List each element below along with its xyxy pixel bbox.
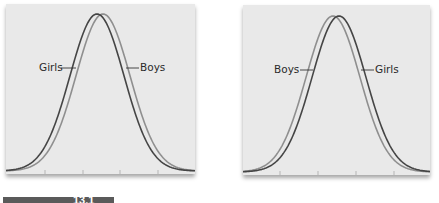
figure-number: 13.1 [73,197,94,203]
curves-right [243,5,430,175]
label-boys: Boys [140,61,165,73]
label-boys: Boys [274,63,299,75]
chart-panel-left: Girls Boys [6,4,195,174]
chart-panel-right: Boys Girls [243,5,430,175]
label-girls: Girls [375,63,399,75]
label-girls: Girls [39,61,63,73]
curves-left [6,4,195,174]
figure-label-banner: 13.1 [3,197,114,203]
